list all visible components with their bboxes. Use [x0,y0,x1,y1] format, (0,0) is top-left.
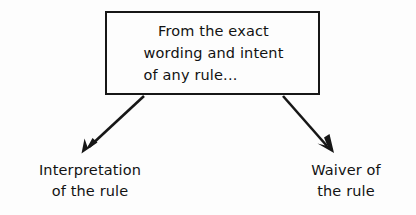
outcome-interpretation-line-1: Interpretation [0,160,180,181]
source-statement-text: From the exact wording and intent of any… [142,20,284,86]
outcome-waiver-line-1: Waiver of [286,160,406,181]
outcome-label-waiver: Waiver of the rule [286,160,406,202]
arrow-to-interpretation-icon [82,96,145,154]
source-statement-line-1: From the exact [144,20,284,42]
source-statement-box: From the exact wording and intent of any… [105,11,320,95]
outcome-label-interpretation: Interpretation of the rule [0,160,180,202]
arrow-to-waiver-icon [283,96,334,153]
source-statement-line-3: of any rule... [144,64,284,86]
source-statement-line-2: wording and intent [144,42,284,64]
outcome-waiver-line-2: the rule [286,181,406,202]
diagram-canvas: From the exact wording and intent of any… [0,0,416,215]
outcome-interpretation-line-2: of the rule [0,181,180,202]
